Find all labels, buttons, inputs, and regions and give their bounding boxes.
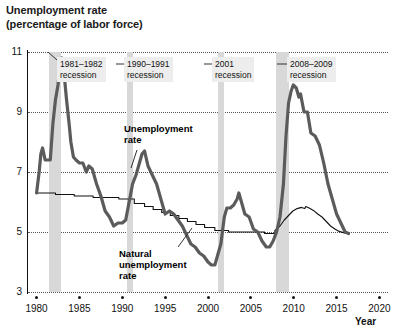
natural-unemployment-rate-label: Natural unemployment rate — [119, 248, 187, 281]
leader-line-natural — [178, 228, 192, 247]
leader-line-1981 — [48, 52, 57, 60]
leader-line-unemployment — [131, 150, 137, 168]
leader-lines — [0, 0, 417, 333]
unemployment-rate-label: Unemployment rate — [124, 123, 193, 145]
unemployment-rate-chart: Unemployment rate (percentage of labor f… — [0, 0, 417, 333]
